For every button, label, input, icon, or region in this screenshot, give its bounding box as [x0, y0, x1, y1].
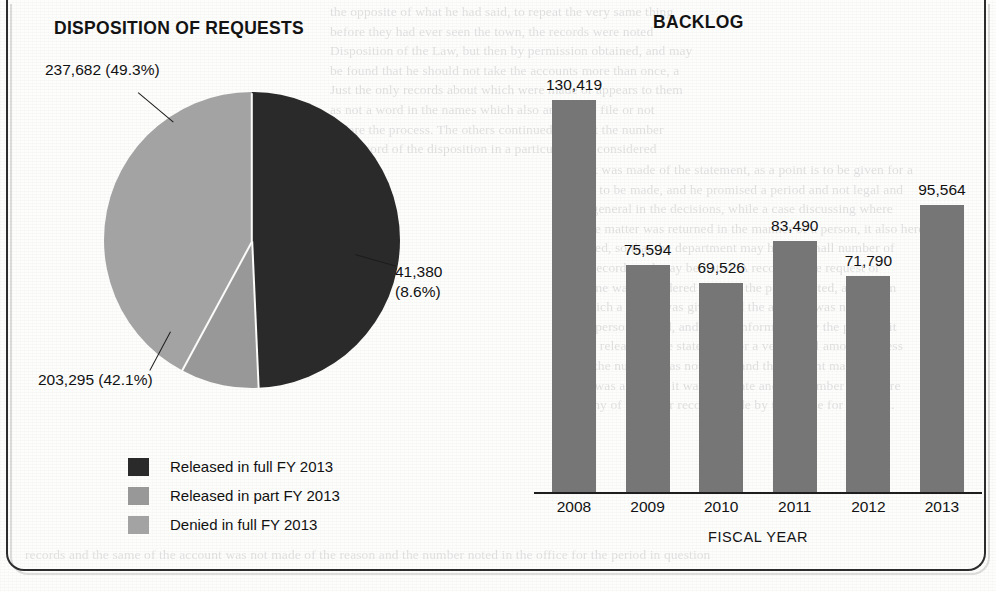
- legend-item-label: Denied in full FY 2013: [170, 516, 317, 533]
- x-tick-label: 2012: [832, 498, 904, 516]
- pie-chart-legend: Released in full FY 2013 Released in par…: [128, 452, 340, 539]
- x-tick-label: 2010: [685, 498, 757, 516]
- disposition-of-requests-chart: DISPOSITION OF REQUESTS 237,682 (49.3%) …: [10, 0, 510, 571]
- legend-swatch-icon: [128, 487, 149, 505]
- pie-slice-label-released-in-full: 237,682 (49.3%): [45, 60, 160, 80]
- x-tick-label: 2013: [906, 498, 978, 516]
- bar-chart-x-tick-labels: 200820092010201120122013: [538, 498, 978, 516]
- bar-series: 130,41975,59469,52683,49071,79095,564: [538, 62, 978, 492]
- pie-slice-label-denied-in-full: 41,380 (8.6%): [395, 262, 442, 302]
- bar-rect: [773, 241, 817, 492]
- legend-item: Released in part FY 2013: [128, 481, 340, 510]
- bar-rect: [552, 100, 596, 492]
- backlog-chart: BACKLOG 130,41975,59469,52683,49071,7909…: [510, 0, 990, 571]
- bar-column: 71,790: [832, 62, 904, 492]
- legend-item: Denied in full FY 2013: [128, 510, 340, 539]
- bar-column: 95,564: [906, 62, 978, 492]
- legend-swatch-icon: [128, 458, 149, 476]
- bar-value-label: 75,594: [624, 241, 671, 259]
- bar-column: 69,526: [685, 62, 757, 492]
- bar-rect: [699, 283, 743, 492]
- x-tick-label: 2009: [612, 498, 684, 516]
- pie-slice-label-released-in-part: 203,295 (42.1%): [38, 370, 153, 390]
- bar-chart-x-axis-title: FISCAL YEAR: [538, 529, 978, 545]
- bar-value-label: 71,790: [845, 252, 892, 270]
- bar-chart-plot-area: 130,41975,59469,52683,49071,79095,564: [538, 62, 978, 492]
- pie-slice-divider: [251, 93, 253, 241]
- legend-item-label: Released in part FY 2013: [170, 487, 340, 504]
- x-tick-label: 2008: [538, 498, 610, 516]
- bar-value-label: 130,419: [546, 76, 602, 94]
- bar-chart-x-axis-line: [534, 492, 982, 494]
- pie-chart-graphic: [104, 92, 400, 388]
- bar-column: 75,594: [612, 62, 684, 492]
- bar-rect: [920, 205, 964, 492]
- pie-chart-title: DISPOSITION OF REQUESTS: [54, 18, 304, 39]
- bar-chart-title: BACKLOG: [653, 12, 744, 33]
- legend-item: Released in full FY 2013: [128, 452, 340, 481]
- bar-value-label: 83,490: [771, 217, 818, 235]
- bar-value-label: 95,564: [918, 181, 965, 199]
- bar-rect: [846, 276, 890, 492]
- bar-value-label: 69,526: [697, 259, 744, 277]
- legend-swatch-icon: [128, 516, 149, 534]
- bar-column: 83,490: [759, 62, 831, 492]
- bar-column: 130,419: [538, 62, 610, 492]
- x-tick-label: 2011: [759, 498, 831, 516]
- bar-rect: [626, 265, 670, 492]
- legend-item-label: Released in full FY 2013: [170, 458, 333, 475]
